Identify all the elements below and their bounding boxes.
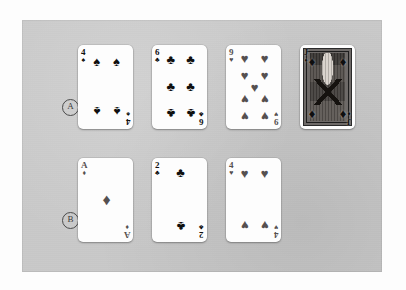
heart-pip: ♥ [241,92,249,105]
heart-pip: ♥ [241,110,249,123]
card-four-of-hearts[interactable]: 4 ♥ 4 ♥ ♥ ♥ ♥ ♥ [226,158,281,242]
heart-pip: ♥ [261,92,269,105]
diamond-icon: ♦ [347,111,350,117]
card-pips: ♣ ♣ ♣ ♣ ♣ ♣ [152,45,207,129]
row-label-a: A [62,99,79,116]
card-nine-of-hearts[interactable]: 9 ♥ 9 ♥ ♥ ♥ ♥ ♥ ♥ ♥ ♥ ♥ ♥ [226,45,281,129]
diamond-icon: ♦ [340,55,347,68]
card-index-bottom-right: J ♦ [347,111,351,125]
heart-pip: ♥ [261,219,269,232]
heart-pip: ♥ [261,69,269,82]
heart-pip: ♥ [241,167,249,180]
court-card-frame: ♦ ♦ ♦ ♦ [303,48,352,126]
card-jack-of-diamonds[interactable]: ♦ ♦ ♦ ♦ J ♦ J ♦ [300,45,355,129]
figure-stage: A B 4 ♠ 4 ♠ ♠ ♠ ♠ ♠ 6 ♣ [0,0,406,290]
card-rank: J [304,49,308,57]
card-pips: ♦ [78,158,133,242]
card-pips: ♣ ♣ [152,158,207,242]
photo-panel: A B 4 ♠ 4 ♠ ♠ ♠ ♠ ♠ 6 ♣ [22,20,382,272]
club-pip: ♣ [166,80,175,93]
card-two-of-clubs[interactable]: 2 ♣ 2 ♣ ♣ ♣ [152,158,207,242]
card-rank: J [347,117,351,125]
club-pip: ♣ [186,107,195,120]
card-four-of-spades[interactable]: 4 ♠ 4 ♠ ♠ ♠ ♠ ♠ [78,45,133,129]
card-six-of-clubs[interactable]: 6 ♣ 6 ♣ ♣ ♣ ♣ ♣ ♣ ♣ [152,45,207,129]
diamond-icon: ♦ [309,55,316,68]
heart-pip: ♥ [261,110,269,123]
heart-pip: ♥ [241,69,249,82]
card-pips: ♥ ♥ ♥ ♥ ♥ ♥ ♥ ♥ ♥ [226,45,281,129]
diamond-icon: ♦ [340,106,347,119]
diamond-icon: ♦ [304,57,307,63]
diamond-pip-center: ♦ [103,192,111,208]
club-pip: ♣ [176,166,185,179]
spade-pip: ♠ [113,54,120,67]
club-pip: ♣ [166,107,175,120]
club-pip: ♣ [186,80,195,93]
heart-pip: ♥ [261,51,269,64]
card-pips: ♥ ♥ ♥ ♥ [226,158,281,242]
heart-pip-center: ♥ [251,81,259,94]
heart-pip: ♥ [241,219,249,232]
club-pip: ♣ [186,53,195,66]
card-pips: ♠ ♠ ♠ ♠ [78,45,133,129]
club-pip: ♣ [166,53,175,66]
card-ace-of-diamonds[interactable]: A ♦ A ♦ ♦ [78,158,133,242]
spade-pip: ♠ [93,105,100,118]
heart-pip: ♥ [241,51,249,64]
spade-pip: ♠ [113,105,120,118]
row-label-b: B [62,212,79,229]
card-index-top-left: J ♦ [304,49,308,63]
diamond-icon: ♦ [309,106,316,119]
club-pip: ♣ [176,220,185,233]
spade-pip: ♠ [93,54,100,67]
heart-pip: ♥ [261,167,269,180]
